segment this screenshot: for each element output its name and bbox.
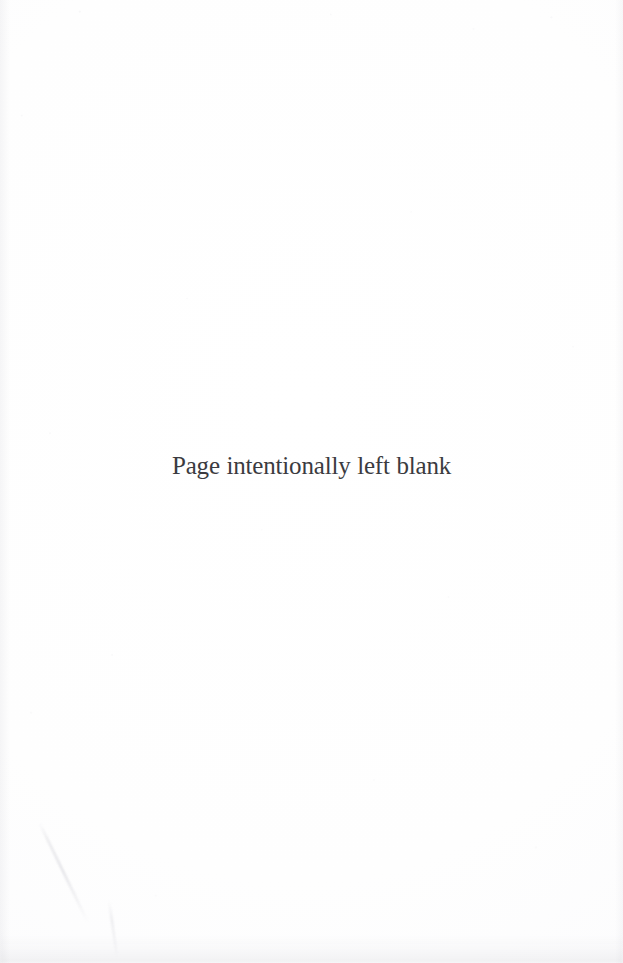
scanned-page: Page intentionally left blank [0,0,623,963]
left-edge-shading [0,0,10,963]
right-edge-shading [615,0,623,963]
bottom-edge-smudge [0,933,623,963]
blank-page-notice: Page intentionally left blank [0,452,623,481]
paper-grain-texture [0,0,623,963]
